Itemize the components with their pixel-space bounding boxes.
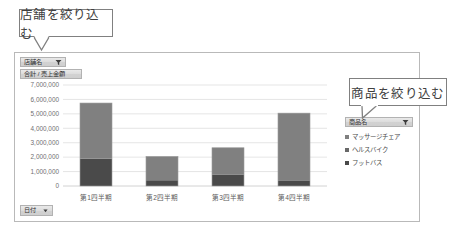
pivot-field-button-legend[interactable]: 商品名 [345, 117, 413, 127]
product-filter-callout-text: 商品を絞り込む [351, 83, 444, 102]
legend-item: マッサージチェア [345, 130, 419, 143]
legend-item: フットバス [345, 156, 419, 169]
pivot-field-button-store-label: 店舗名 [24, 59, 42, 65]
store-filter-callout-tail-icon [34, 36, 50, 51]
bar-segment[interactable] [80, 103, 112, 159]
legend-item-label: フットバス [352, 158, 382, 167]
pivot-field-button-legend-label: 商品名 [349, 119, 367, 125]
legend-item-label: ヘルスバイク [352, 145, 388, 154]
y-axis-tick-label: 0 [55, 182, 59, 189]
x-axis-category-label: 第1四半期 [80, 193, 112, 202]
bar-segment[interactable] [146, 156, 178, 180]
y-axis-tick-label: 5,000,000 [31, 110, 60, 117]
x-axis-category-label: 第2四半期 [146, 193, 178, 202]
store-filter-callout: 店舗を絞り込む [19, 9, 113, 37]
bar-segment[interactable] [278, 181, 310, 186]
bar-segment[interactable] [146, 180, 178, 186]
legend-swatch-icon [345, 148, 349, 152]
filter-dropdown-icon[interactable] [402, 119, 409, 126]
pivot-field-button-value[interactable]: 合計 / 売上金額 [20, 69, 82, 79]
legend-swatch-icon [345, 161, 349, 165]
x-axis-category-label: 第4四半期 [278, 193, 310, 202]
chart-legend: マッサージチェアヘルスバイクフットバス [345, 130, 419, 169]
pivot-field-button-store[interactable]: 店舗名 [20, 57, 66, 67]
y-axis-tick-label: 6,000,000 [31, 96, 60, 103]
pivot-field-button-value-label: 合計 / 売上金額 [24, 71, 65, 77]
legend-item: ヘルスバイク [345, 143, 419, 156]
pivot-field-button-axis-label: 日付 [24, 207, 36, 213]
bar-segment[interactable] [278, 113, 310, 181]
y-axis-tick-label: 7,000,000 [31, 81, 60, 88]
y-axis-tick-label: 4,000,000 [31, 125, 60, 132]
pivot-field-button-axis[interactable]: 日付 [20, 205, 53, 216]
x-axis-category-label: 第3四半期 [212, 193, 244, 202]
y-axis-tick-label: 2,000,000 [31, 153, 60, 160]
filter-dropdown-icon[interactable] [55, 59, 62, 66]
bar-segment[interactable] [80, 159, 112, 186]
y-axis-tick-label: 1,000,000 [31, 168, 60, 175]
legend-item-label: マッサージチェア [352, 132, 400, 141]
bar-segment[interactable] [212, 174, 244, 186]
product-filter-callout-tail-icon [361, 105, 379, 119]
y-axis-tick-label: 3,000,000 [31, 139, 60, 146]
dropdown-arrow-icon[interactable] [42, 207, 49, 214]
product-filter-callout: 商品を絞り込む [349, 78, 447, 106]
legend-swatch-icon [345, 135, 349, 139]
bar-segment[interactable] [212, 148, 244, 175]
